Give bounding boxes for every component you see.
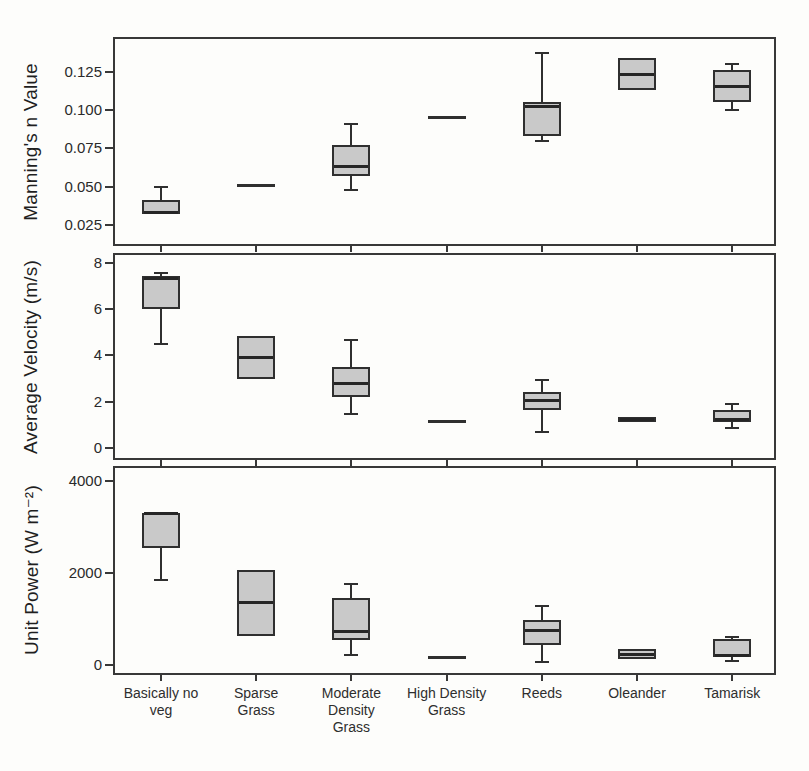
whisker-low-reeds <box>541 410 543 432</box>
panel-average-velocity <box>113 253 776 460</box>
whisker-high-cap-tamarisk <box>725 403 739 405</box>
x-tick-sparse-grass <box>255 244 257 252</box>
median-oleander <box>620 653 654 656</box>
whisker-high-moderate-density-grass <box>350 584 352 598</box>
y-tick-manning-s-n-value-0.025 <box>105 224 114 226</box>
x-tick-high-density-grass <box>446 673 448 681</box>
y-tick-average-velocity-m-s--2 <box>105 401 114 403</box>
x-tick-high-density-grass <box>446 458 448 466</box>
median-oleander <box>620 73 654 76</box>
whisker-high-cap-basically-no-veg <box>154 186 168 188</box>
box-moderate-density-grass <box>332 598 370 640</box>
whisker-high-cap-basically-no-veg <box>154 272 168 274</box>
median-moderate-density-grass <box>334 382 368 385</box>
x-tick-reeds <box>541 458 543 466</box>
whisker-high-cap-reeds <box>535 379 549 381</box>
whisker-high-moderate-density-grass <box>350 124 352 145</box>
whisker-low-cap-moderate-density-grass <box>344 413 358 415</box>
x-tick-moderate-density-grass <box>350 458 352 466</box>
x-tick-basically-no-veg <box>160 244 162 252</box>
whisker-low-moderate-density-grass <box>350 176 352 190</box>
whisker-low-cap-reeds <box>535 140 549 142</box>
x-tick-tamarisk <box>731 244 733 252</box>
x-tick-reeds <box>541 244 543 252</box>
whisker-high-cap-moderate-density-grass <box>344 339 358 341</box>
median-tamarisk <box>715 654 749 657</box>
median-basically-no-veg <box>144 512 178 515</box>
x-tick-high-density-grass <box>446 244 448 252</box>
whisker-high-reeds <box>541 53 543 102</box>
whisker-high-cap-moderate-density-grass <box>344 123 358 125</box>
y-tick-average-velocity-m-s--6 <box>105 308 114 310</box>
whisker-low-basically-no-veg <box>160 309 162 344</box>
whisker-high-cap-tamarisk <box>725 63 739 65</box>
y-tick-label-0: 0 <box>40 439 102 456</box>
median-reeds <box>525 399 559 402</box>
y-tick-label-0.100: 0.100 <box>40 101 102 118</box>
x-tick-oleander <box>636 244 638 252</box>
box-moderate-density-grass <box>332 145 370 176</box>
y-tick-average-velocity-m-s--4 <box>105 354 114 356</box>
whisker-low-cap-basically-no-veg <box>154 343 168 345</box>
box-line-high-density-grass <box>428 656 466 659</box>
y-tick-label-0.050: 0.050 <box>40 178 102 195</box>
y-tick-label-0: 0 <box>40 656 102 673</box>
y-tick-label-0.125: 0.125 <box>40 63 102 80</box>
median-basically-no-veg <box>144 277 178 280</box>
x-tick-reeds <box>541 673 543 681</box>
panel-unit-power <box>113 466 776 675</box>
panel-mannings-n <box>113 37 776 246</box>
box-line-high-density-grass <box>428 420 466 423</box>
median-sparse-grass <box>239 601 273 604</box>
median-tamarisk <box>715 418 749 421</box>
box-basically-no-veg <box>142 513 180 548</box>
whisker-low-cap-moderate-density-grass <box>344 654 358 656</box>
y-tick-label-0.075: 0.075 <box>40 139 102 156</box>
whisker-high-reeds <box>541 606 543 620</box>
median-moderate-density-grass <box>334 630 368 633</box>
whisker-low-moderate-density-grass <box>350 640 352 655</box>
y-tick-manning-s-n-value-0.050 <box>105 186 114 188</box>
median-sparse-grass <box>239 356 273 359</box>
y-tick-average-velocity-m-s--0 <box>105 447 114 449</box>
whisker-low-cap-reeds <box>535 431 549 433</box>
y-tick-label-4000: 4000 <box>40 472 102 489</box>
x-tick-basically-no-veg <box>160 673 162 681</box>
whisker-high-moderate-density-grass <box>350 340 352 366</box>
median-reeds <box>525 629 559 632</box>
y-tick-label-6: 6 <box>40 300 102 317</box>
y-axis-title-average-velocity: Average Velocity (m/s) <box>20 260 42 454</box>
whisker-high-cap-reeds <box>535 52 549 54</box>
box-line-sparse-grass <box>237 184 275 187</box>
median-tamarisk <box>715 85 749 88</box>
y-tick-unit-power-w-m--2000 <box>105 572 114 574</box>
y-tick-manning-s-n-value-0.100 <box>105 109 114 111</box>
whisker-low-cap-tamarisk <box>725 109 739 111</box>
whisker-high-reeds <box>541 380 543 393</box>
y-tick-unit-power-w-m--4000 <box>105 480 114 482</box>
x-tick-moderate-density-grass <box>350 244 352 252</box>
x-tick-tamarisk <box>731 673 733 681</box>
y-axis-title-mannings-n: Manning's n Value <box>20 63 42 221</box>
whisker-high-cap-reeds <box>535 605 549 607</box>
whisker-high-cap-moderate-density-grass <box>344 583 358 585</box>
whisker-high-cap-tamarisk <box>725 636 739 638</box>
x-tick-moderate-density-grass <box>350 673 352 681</box>
x-tick-basically-no-veg <box>160 458 162 466</box>
x-tick-sparse-grass <box>255 673 257 681</box>
median-reeds <box>525 105 559 108</box>
y-tick-unit-power-w-m--0 <box>105 664 114 666</box>
whisker-low-cap-moderate-density-grass <box>344 189 358 191</box>
whisker-low-cap-reeds <box>535 661 549 663</box>
y-tick-label-4: 4 <box>40 346 102 363</box>
boxplot-figure: Manning's n Value Average Velocity (m/s)… <box>0 0 809 771</box>
whisker-high-basically-no-veg <box>160 187 162 201</box>
whisker-low-cap-basically-no-veg <box>154 579 168 581</box>
x-tick-sparse-grass <box>255 458 257 466</box>
x-tick-oleander <box>636 673 638 681</box>
y-tick-label-8: 8 <box>40 254 102 271</box>
y-tick-manning-s-n-value-0.075 <box>105 147 114 149</box>
whisker-low-moderate-density-grass <box>350 397 352 414</box>
x-tick-tamarisk <box>731 458 733 466</box>
y-tick-label-2000: 2000 <box>40 564 102 581</box>
